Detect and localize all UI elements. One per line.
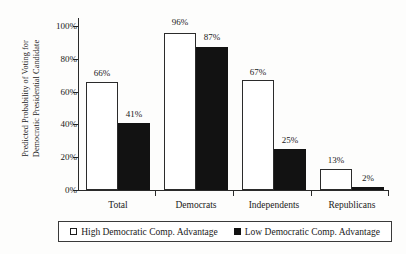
bar-value-independents-low: 25% [264,136,316,145]
bar-republicans-low[interactable] [352,187,384,190]
y-tick-label-80: 80% [37,55,77,64]
chart-legend: High Democratic Comp. Advantage Low Demo… [58,221,392,242]
bar-value-democrats-low: 87% [186,33,238,42]
y-tick-label-0: 0% [37,186,77,195]
bar-value-republicans-low: 2% [342,174,394,183]
bar-total-high[interactable] [86,82,118,190]
legend-label-high: High Democratic Comp. Advantage [81,227,218,237]
x-label-democrats: Democrats [154,200,238,211]
x-label-republicans: Republicans [310,200,394,211]
bar-independents-low[interactable] [274,149,306,190]
x-label-independents: Independents [232,200,316,211]
y-axis-title-line-1: Predicted Probability of Voting for [22,39,33,156]
y-tick-label-100: 100% [37,22,77,31]
y-tick-label-40: 40% [37,120,77,129]
y-tick-label-60: 60% [37,88,77,97]
bar-independents-high[interactable] [242,80,274,190]
legend-entry-low[interactable]: Low Democratic Comp. Advantage [234,227,380,237]
bar-democrats-low[interactable] [196,47,228,190]
bar-value-total-high: 66% [76,69,128,78]
bar-value-republicans-high: 13% [310,156,362,165]
bar-total-low[interactable] [118,123,150,190]
legend-label-low: Low Democratic Comp. Advantage [245,227,380,237]
bar-value-democrats-high: 96% [154,18,206,27]
x-tick-boundary-3 [311,191,312,196]
x-tick-boundary-1 [155,191,156,196]
chart-figure: Predicted Probability of Voting for Demo… [0,0,406,254]
legend-swatch-open-square-icon [70,228,77,235]
bar-democrats-high[interactable] [164,33,196,190]
bar-value-total-low: 41% [108,110,160,119]
y-tick-label-20: 20% [37,153,77,162]
legend-swatch-filled-square-icon [234,228,241,235]
legend-entry-high[interactable]: High Democratic Comp. Advantage [70,227,218,237]
plot-area: 0% 20% 40% 60% 80% 100% 66% 41% 96% 87% … [78,26,389,190]
x-label-total: Total [76,200,160,211]
x-tick-boundary-2 [233,191,234,196]
y-axis-line [78,18,79,190]
x-tick-boundary-4 [388,191,389,196]
bar-value-independents-high: 67% [232,68,284,77]
